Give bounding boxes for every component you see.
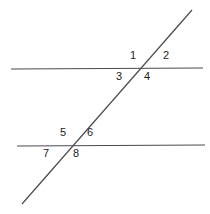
angle-label-4: 4 xyxy=(144,71,150,82)
upper-parallel-line xyxy=(11,68,203,69)
transversal-line xyxy=(22,10,192,204)
lower-parallel-line xyxy=(17,145,205,146)
angle-label-3: 3 xyxy=(116,71,122,82)
angle-label-7: 7 xyxy=(43,148,49,159)
angle-label-6: 6 xyxy=(87,127,93,138)
angle-label-5: 5 xyxy=(60,127,66,138)
geometry-diagram: 1 2 3 4 5 6 7 8 xyxy=(0,0,210,214)
angle-label-8: 8 xyxy=(73,148,79,159)
angle-label-2: 2 xyxy=(163,50,169,61)
angle-label-1: 1 xyxy=(130,50,136,61)
geometry-canvas xyxy=(0,0,210,214)
